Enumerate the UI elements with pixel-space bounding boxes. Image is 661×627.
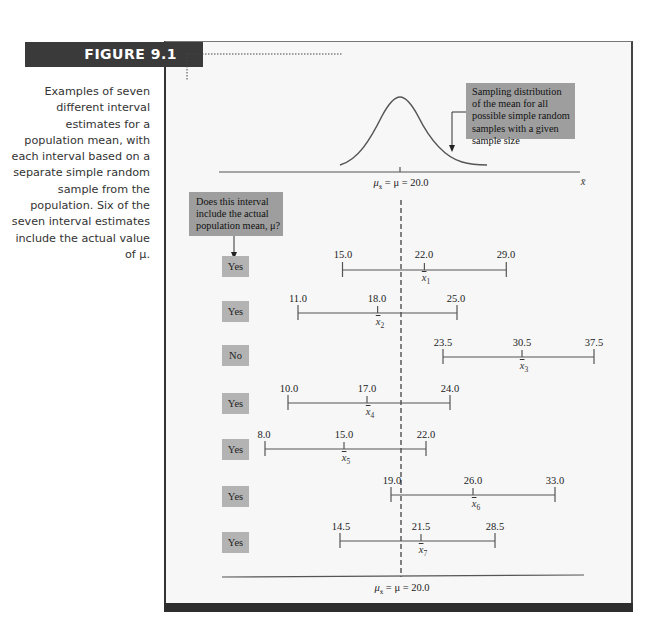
- mu-value: = μ = 20.0: [382, 177, 428, 188]
- interval-3-xbar: x3: [520, 360, 528, 374]
- answer-box-5: Yes: [222, 439, 249, 460]
- note-arrow-head: [449, 145, 455, 152]
- interval-6-xbar: x6: [472, 498, 480, 512]
- interval-4-mean: 17.0: [358, 383, 376, 394]
- interval-1-mean: 22.0: [415, 249, 433, 260]
- interval-4-xbar: x4: [366, 406, 374, 420]
- interval-3-lower: 23.5: [434, 337, 452, 348]
- interval-4-lower: 10.0: [280, 383, 298, 394]
- answer-box-7: Yes: [222, 532, 249, 553]
- interval-2-mean: 18.0: [368, 293, 386, 304]
- xbar-subscript: 6: [476, 503, 480, 512]
- answer-box-2: Yes: [222, 301, 249, 322]
- xbar-subscript: 3: [524, 365, 528, 374]
- top-center-label: μx̄ = μ = 20.0: [373, 177, 428, 191]
- answer-box-3: No: [222, 345, 249, 366]
- sampling-distribution-note: Sampling distribution of the mean for al…: [466, 83, 575, 139]
- interval-1-xbar: x1: [422, 272, 430, 286]
- interval-7: [340, 533, 495, 548]
- interval-7-xbar: x7: [419, 544, 427, 558]
- interval-3-mean: 30.5: [513, 337, 531, 348]
- interval-6-upper: 33.0: [546, 475, 564, 486]
- interval-7-upper: 28.5: [486, 521, 504, 532]
- question-box: Does this interval include the actual po…: [189, 192, 283, 236]
- mu-value: = μ = 20.0: [383, 582, 429, 593]
- interval-2-lower: 11.0: [289, 293, 307, 304]
- xbar-subscript: 7: [423, 549, 427, 558]
- xbar-subscript: 5: [346, 457, 350, 466]
- interval-5-xbar: x5: [342, 452, 350, 466]
- answer-box-4: Yes: [222, 393, 249, 414]
- answer-box-6: Yes: [222, 486, 249, 507]
- interval-1-lower: 15.0: [334, 249, 352, 260]
- interval-2-upper: 25.0: [447, 293, 465, 304]
- xbar-subscript: 2: [380, 321, 384, 330]
- interval-7-lower: 14.5: [332, 521, 350, 532]
- interval-7-mean: 21.5: [412, 521, 430, 532]
- answer-box-1: Yes: [222, 256, 249, 277]
- interval-6-lower: 19.0: [383, 475, 401, 486]
- top-axis-label: x̄: [581, 176, 586, 187]
- interval-3: [443, 349, 594, 364]
- interval-2-xbar: x2: [376, 316, 384, 330]
- interval-4-upper: 24.0: [441, 383, 459, 394]
- sampling-distribution-curve: [340, 97, 487, 165]
- bottom-center-label: μx̄ = μ = 20.0: [374, 582, 429, 596]
- xbar-subscript: 4: [370, 411, 374, 420]
- interval-5-lower: 8.0: [257, 429, 270, 440]
- interval-6-mean: 26.0: [464, 475, 482, 486]
- xbar-subscript: 1: [426, 277, 430, 286]
- interval-1-upper: 29.0: [497, 249, 515, 260]
- interval-5-upper: 22.0: [417, 429, 435, 440]
- note-arrow-line: [452, 112, 466, 146]
- interval-5-mean: 15.0: [335, 429, 353, 440]
- bottom-axis-line: [222, 575, 584, 577]
- interval-3-upper: 37.5: [585, 337, 603, 348]
